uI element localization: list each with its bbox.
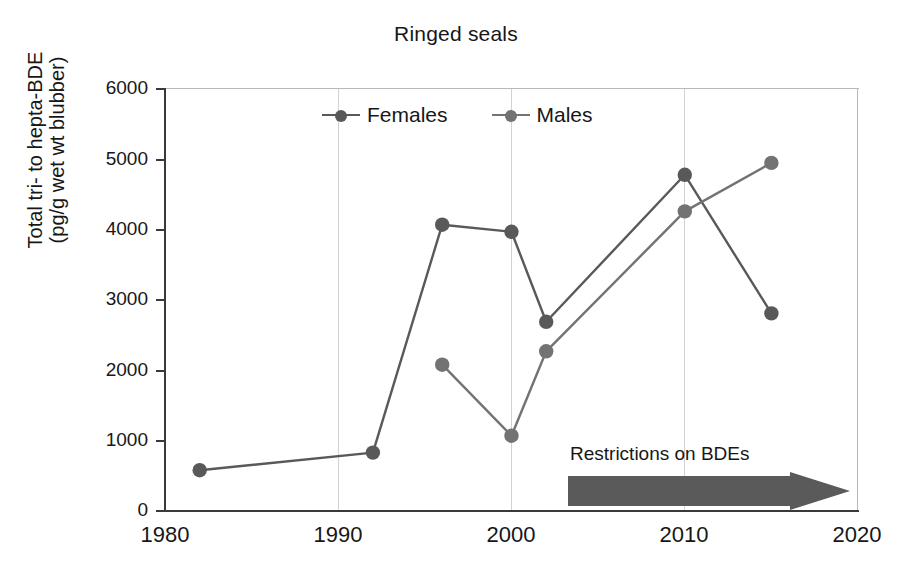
data-point (193, 463, 207, 477)
data-point (504, 429, 518, 443)
legend-marker-males-icon (492, 108, 530, 122)
chart-figure: Ringed seals Total tri- to hepta-BDE (pg… (0, 0, 912, 588)
data-point (435, 358, 449, 372)
data-point (678, 168, 692, 182)
data-point (764, 306, 778, 320)
series-line-females (200, 175, 772, 470)
data-point (678, 204, 692, 218)
data-point (435, 218, 449, 232)
data-point (366, 445, 380, 459)
data-point (539, 315, 553, 329)
annotation-restrictions-label: Restrictions on BDEs (570, 443, 750, 465)
chart-legend: Females Males (322, 103, 593, 127)
series-line-males (442, 163, 771, 436)
legend-label-males: Males (537, 103, 593, 127)
legend-label-females: Females (367, 103, 448, 127)
series-males (435, 156, 779, 443)
legend-entry-males: Males (492, 103, 593, 127)
legend-entry-females: Females (322, 103, 448, 127)
data-point (504, 225, 518, 239)
legend-marker-females-icon (322, 108, 360, 122)
data-point (764, 156, 778, 170)
annotation-right-arrow-icon (568, 472, 850, 510)
data-point (539, 344, 553, 358)
